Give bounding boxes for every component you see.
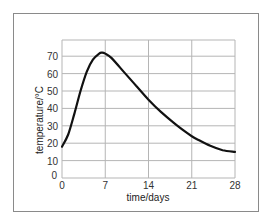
x-tick-label: 0 — [59, 180, 65, 191]
y-tick-label: 70 — [47, 51, 59, 62]
x-axis-label: time/days — [127, 192, 170, 203]
temperature-time-chart: 010203040506070 07142128 time/days tempe… — [0, 0, 267, 221]
y-axis-label: temperature/°C — [34, 86, 45, 154]
y-tick-label: 60 — [47, 69, 59, 80]
y-tick-label: 0 — [51, 170, 57, 181]
grid-lines — [62, 40, 235, 178]
y-tick-label: 30 — [47, 121, 59, 132]
y-axis-ticks: 010203040506070 — [47, 51, 59, 181]
x-tick-label: 28 — [229, 180, 241, 191]
x-tick-label: 7 — [102, 180, 108, 191]
x-axis-ticks: 07142128 — [59, 180, 241, 191]
y-tick-label: 50 — [47, 86, 59, 97]
y-tick-label: 10 — [47, 156, 59, 167]
y-tick-label: 20 — [47, 138, 59, 149]
x-tick-label: 21 — [186, 180, 198, 191]
x-tick-label: 14 — [143, 180, 155, 191]
y-tick-label: 40 — [47, 103, 59, 114]
